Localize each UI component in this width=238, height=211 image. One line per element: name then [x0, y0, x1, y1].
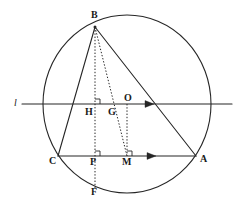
arrow-on-line-l	[145, 101, 154, 108]
point-label-m: M	[122, 157, 131, 167]
line-label-l: l	[14, 98, 17, 108]
vertex-dot-B	[94, 26, 97, 29]
point-label-p: P	[90, 157, 96, 167]
diagram-canvas	[0, 0, 238, 211]
point-label-g: G	[108, 107, 116, 117]
right-angle-at-H	[95, 99, 100, 104]
point-label-a: A	[200, 154, 207, 164]
point-label-b: B	[91, 10, 98, 20]
point-label-o: O	[124, 93, 132, 103]
point-label-c: C	[49, 156, 56, 166]
point-label-f: F	[91, 187, 97, 197]
geometry-figure: BOHGCPMAFl	[0, 0, 238, 211]
arrow-on-side-CA	[147, 153, 156, 160]
median-BM	[95, 27, 127, 156]
side-BA	[95, 27, 196, 156]
point-label-h: H	[85, 107, 93, 117]
